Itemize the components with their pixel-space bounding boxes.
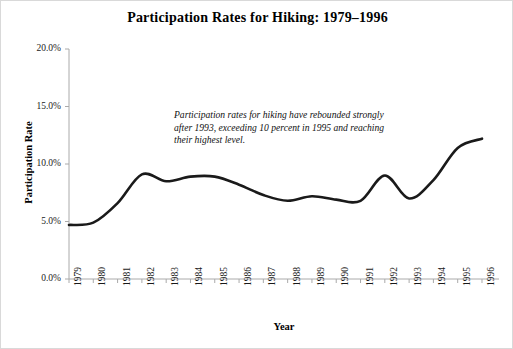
x-axis-tick-label: 1994 (437, 267, 447, 286)
x-axis-tick-label: 1980 (97, 267, 107, 286)
x-axis-tick-label: 1985 (219, 267, 229, 286)
line-chart-plot (1, 1, 513, 349)
x-axis-tick-label: 1983 (170, 267, 180, 286)
y-axis-tick-label: 0.0% (17, 273, 61, 283)
x-axis-tick-label: 1995 (462, 267, 472, 286)
chart-annotation: Participation rates for hiking have rebo… (174, 109, 389, 147)
x-axis-tick-label: 1988 (292, 267, 302, 286)
x-axis-tick-label: 1992 (389, 267, 399, 286)
x-axis-tick-label: 1986 (243, 267, 253, 286)
y-axis-ticks (65, 49, 69, 279)
chart-axes (69, 49, 499, 279)
x-axis-tick-label: 1987 (267, 267, 277, 286)
x-axis-tick-label: 1989 (316, 267, 326, 286)
chart-page: Participation Rates for Hiking: 1979–199… (0, 0, 513, 349)
x-axis-tick-label: 1996 (486, 267, 496, 286)
hiking-participation-line (69, 139, 482, 225)
x-axis-tick-label: 1991 (365, 267, 375, 286)
x-axis-tick-label: 1990 (340, 267, 350, 286)
y-axis-title: Participation Rate (23, 108, 34, 218)
x-axis-tick-label: 1979 (73, 267, 83, 286)
x-axis-title: Year (69, 321, 499, 332)
x-axis-tick-label: 1982 (146, 267, 156, 286)
x-axis-tick-label: 1984 (194, 267, 204, 286)
x-axis-tick-label: 1993 (413, 267, 423, 286)
y-axis-tick-label: 20.0% (17, 43, 61, 53)
x-axis-tick-label: 1981 (122, 267, 132, 286)
